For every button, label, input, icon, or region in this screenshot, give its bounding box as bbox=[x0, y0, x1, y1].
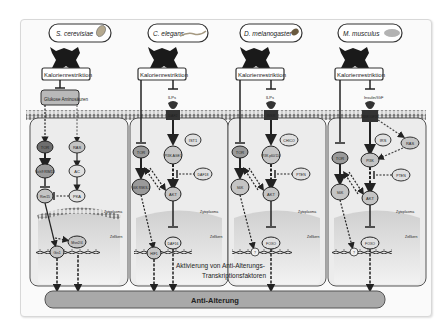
svg-text:DAF16: DAF16 bbox=[168, 242, 179, 246]
restriction-mask-icon bbox=[339, 47, 369, 70]
svg-text:AKT: AKT bbox=[366, 196, 374, 201]
restriction-mask-icon bbox=[50, 47, 80, 70]
svg-text:AC: AC bbox=[74, 169, 80, 174]
center-caption-line1: Aktivierung von Anti-Alterungs- bbox=[176, 262, 265, 270]
dna-strand bbox=[232, 249, 292, 254]
svg-text:FOXO: FOXO bbox=[365, 242, 375, 246]
column-c-elegans: C. elegans Kalorienrestriktion ILPs DAF2… bbox=[130, 24, 228, 288]
restriction-mask-icon bbox=[240, 47, 270, 70]
dna-strand bbox=[332, 249, 392, 254]
stimulus-label: Kalorienrestriktion bbox=[44, 72, 92, 78]
svg-text:AKT: AKT bbox=[267, 192, 275, 197]
organism-label: M. musculus bbox=[343, 30, 380, 37]
svg-text:RAS: RAS bbox=[406, 141, 415, 146]
pathway-diagram: S. cerevisiae Kalorienrestriktion Glukos… bbox=[0, 0, 448, 333]
svg-text:Rim15: Rim15 bbox=[40, 195, 50, 199]
svg-text:IST1: IST1 bbox=[189, 138, 198, 143]
svg-text:Zytoplasma: Zytoplasma bbox=[200, 210, 218, 214]
stimulus-label: Kalorienrestriktion bbox=[337, 72, 385, 78]
svg-text:?: ? bbox=[254, 251, 256, 255]
column-s-cerevisiae: S. cerevisiae Kalorienrestriktion Glukos… bbox=[30, 24, 128, 288]
svg-text:FOXO: FOXO bbox=[266, 242, 276, 246]
svg-text:S6K RSKS-1: S6K RSKS-1 bbox=[132, 186, 151, 190]
anti-aging-label: Anti-Alterung bbox=[191, 296, 239, 305]
svg-text:PTEN: PTEN bbox=[396, 174, 406, 178]
svg-text:Zellkern: Zellkern bbox=[307, 235, 320, 239]
restriction-mask-icon bbox=[148, 47, 178, 70]
svg-text:PI3K p60/110: PI3K p60/110 bbox=[261, 154, 280, 158]
svg-text:AKT: AKT bbox=[169, 192, 177, 197]
ligand-label: Insulin/IGF bbox=[364, 95, 384, 100]
mouse-icon bbox=[384, 29, 400, 37]
ligand-label: ILPs bbox=[168, 95, 176, 100]
svg-text:HIF1: HIF1 bbox=[150, 252, 158, 256]
dna-strand bbox=[134, 249, 192, 254]
svg-text:CHICO: CHICO bbox=[283, 139, 295, 143]
svg-text:PKA: PKA bbox=[73, 194, 81, 199]
svg-text:Zytoplasma: Zytoplasma bbox=[104, 210, 122, 214]
receptor-icon bbox=[168, 101, 178, 109]
svg-text:?: ? bbox=[353, 251, 355, 255]
svg-text:DAF2: DAF2 bbox=[169, 114, 178, 118]
organism-label: C. elegans bbox=[153, 30, 185, 38]
stimulus-label: Kalorienrestriktion bbox=[238, 72, 286, 78]
svg-text:TOR: TOR bbox=[41, 145, 49, 150]
svg-text:Zellkern: Zellkern bbox=[405, 235, 418, 239]
center-caption-line2: Transkriptionsfaktoren bbox=[202, 272, 266, 280]
svg-text:Zytoplasma: Zytoplasma bbox=[298, 210, 316, 214]
svg-text:Gis1: Gis1 bbox=[53, 251, 60, 255]
svg-text:S6K: S6K bbox=[237, 186, 244, 190]
svg-text:Zellkern: Zellkern bbox=[210, 235, 223, 239]
svg-text:INSR IGF1R: INSR IGF1R bbox=[362, 115, 380, 119]
svg-text:RAS: RAS bbox=[73, 145, 82, 150]
svg-text:S6K: S6K bbox=[337, 191, 344, 195]
column-d-melanogaster: D. melanogaster Kalorienrestriktion ILPs… bbox=[228, 24, 326, 288]
receptor-icon bbox=[365, 101, 375, 109]
svg-text:INSR: INSR bbox=[267, 114, 276, 118]
ligand-label: ILPs bbox=[266, 95, 274, 100]
svg-text:Sch9 RIM15: Sch9 RIM15 bbox=[35, 170, 54, 174]
column-m-musculus: M. musculus Kalorienrestriktion Insulin/… bbox=[328, 24, 426, 288]
svg-text:Zytoplasma: Zytoplasma bbox=[396, 210, 414, 214]
svg-text:PI3K: PI3K bbox=[366, 159, 374, 163]
svg-text:Zellkern: Zellkern bbox=[110, 235, 123, 239]
svg-text:DAF18: DAF18 bbox=[198, 173, 209, 177]
svg-text:PTEN: PTEN bbox=[296, 173, 306, 177]
svg-text:TOR: TOR bbox=[137, 150, 145, 155]
stimulus-label: Kalorienrestriktion bbox=[140, 72, 188, 78]
receptor-icon bbox=[266, 101, 276, 109]
ligand-label: Glukose Aminosäuren bbox=[44, 97, 89, 102]
organism-label: S. cerevisiae bbox=[56, 30, 94, 37]
organism-label: D. melanogaster bbox=[244, 30, 293, 38]
svg-text:TOR: TOR bbox=[336, 156, 344, 161]
svg-text:IRS: IRS bbox=[380, 138, 387, 143]
svg-text:TOR: TOR bbox=[236, 150, 244, 155]
svg-text:Msn2/4: Msn2/4 bbox=[71, 241, 83, 245]
dna-strand bbox=[36, 249, 100, 254]
svg-text:PI3K AGE1: PI3K AGE1 bbox=[164, 154, 182, 158]
